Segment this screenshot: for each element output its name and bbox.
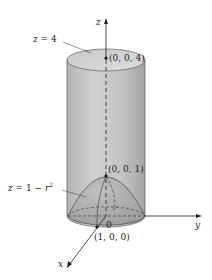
origin-label: 0 — [106, 220, 112, 230]
point-x-label: (1, 0, 0) — [94, 232, 130, 242]
point-vertex — [104, 174, 107, 177]
y-axis-arrow — [196, 214, 202, 218]
point-vertex-label: (0, 0, 1) — [108, 164, 144, 174]
z-axis-label: z — [95, 17, 101, 27]
top-plane-label: z = 4 — [32, 34, 57, 44]
x-axis-label: x — [58, 259, 63, 269]
y-axis-label: y — [194, 220, 201, 230]
point-x — [95, 225, 98, 228]
point-top-label: (0, 0, 4) — [109, 53, 145, 63]
leader-top-plane — [63, 42, 91, 53]
point-top — [104, 56, 107, 59]
z-axis-arrow — [104, 18, 108, 24]
paraboloid-label: z = 1 − r2 — [7, 181, 53, 193]
diagram-canvas: z z = 4 (0, 0, 4) (0, 0, 1) z = 1 − r2 0… — [0, 0, 212, 280]
